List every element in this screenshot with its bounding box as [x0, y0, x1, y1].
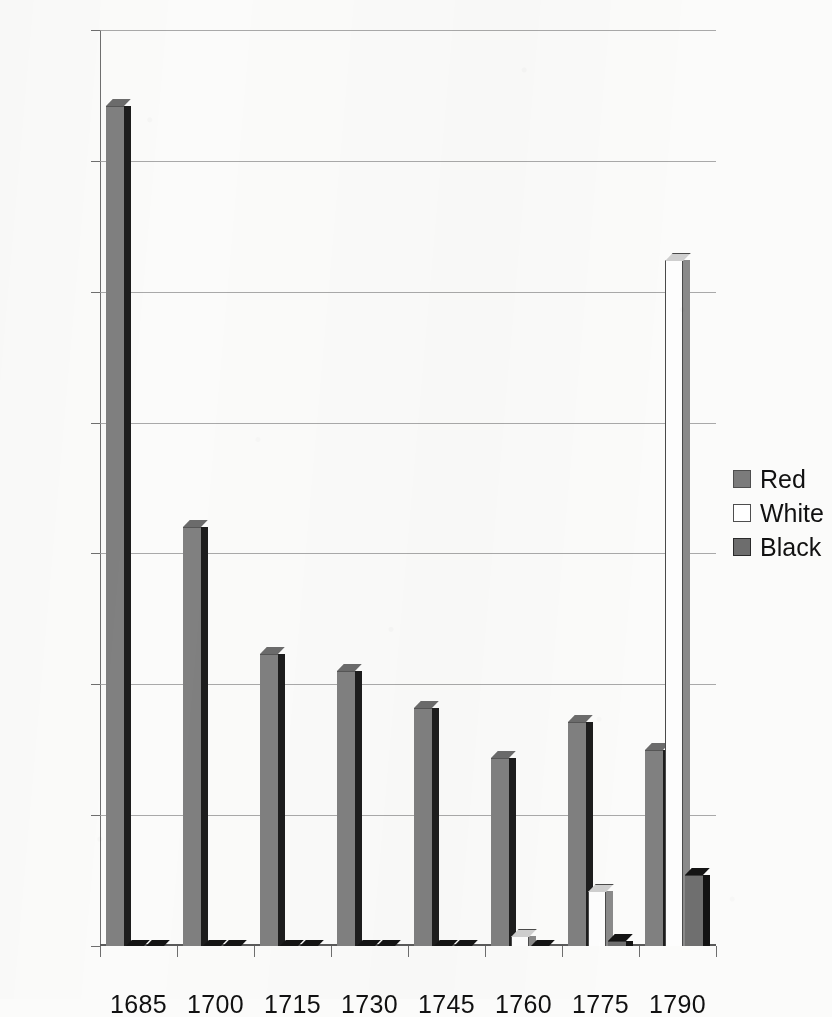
bar-side [509, 758, 516, 946]
x-axis-tick-mark [716, 946, 717, 957]
gridline [100, 161, 716, 162]
legend-item-red: Red [733, 462, 824, 496]
legend-label: White [760, 496, 824, 530]
bar-side [626, 941, 633, 946]
bar-side [124, 106, 131, 946]
legend-label: Black [760, 530, 821, 564]
y-axis-tick-mark [91, 946, 100, 947]
x-axis-tick-mark [485, 946, 486, 957]
bar-face [685, 875, 703, 946]
x-axis-tick-mark [254, 946, 255, 957]
bar-face [183, 527, 201, 946]
bar-face [568, 722, 586, 946]
bar-face [337, 671, 355, 946]
x-axis-tick-label: 1760 [495, 990, 552, 1017]
legend-swatch-white-icon [733, 504, 751, 522]
bar-side [355, 671, 362, 946]
bar-side [432, 708, 439, 946]
legend-label: Red [760, 462, 806, 496]
bar-top [414, 701, 439, 708]
y-axis-tick-mark [91, 423, 100, 424]
x-axis-tick-label: 1685 [110, 990, 167, 1017]
bar-white-1760 [511, 936, 529, 946]
bar-face [491, 758, 509, 946]
x-axis-tick-mark [562, 946, 563, 957]
x-axis-tick-label: 1700 [187, 990, 244, 1017]
bar-red-1730 [337, 671, 355, 946]
bar-white-1775 [588, 891, 606, 946]
bar-side [278, 654, 285, 946]
x-axis-tick-mark [100, 946, 101, 957]
x-axis-tick-mark [408, 946, 409, 957]
bar-top [106, 99, 131, 106]
x-axis-tick-label: 1730 [341, 990, 398, 1017]
x-axis-tick-label: 1715 [264, 990, 321, 1017]
gridline [100, 423, 716, 424]
bar-side [683, 260, 690, 946]
bar-face [414, 708, 432, 946]
bar-face [106, 106, 124, 946]
y-axis-tick-mark [91, 553, 100, 554]
legend-swatch-red-icon [733, 470, 751, 488]
bar-face [260, 654, 278, 946]
bar-top [183, 520, 208, 527]
legend-item-black: Black [733, 530, 824, 564]
x-axis-tick-mark [177, 946, 178, 957]
y-axis-tick-mark [91, 684, 100, 685]
legend-item-white: White [733, 496, 824, 530]
y-axis-tick-mark [91, 815, 100, 816]
x-axis-tick-label: 1790 [649, 990, 706, 1017]
x-axis-tick-mark [639, 946, 640, 957]
bar-face [645, 750, 663, 946]
bar-top [568, 715, 593, 722]
bar-red-1715 [260, 654, 278, 946]
bar-face [665, 260, 683, 946]
plot-area: 0500010000150002000025000300003500016851… [100, 30, 716, 946]
legend-swatch-black-icon [733, 538, 751, 556]
chart-legend: RedWhiteBlack [733, 462, 824, 564]
bar-black-1775 [608, 941, 626, 946]
x-axis-tick-label: 1745 [418, 990, 475, 1017]
bar-top [491, 751, 516, 758]
bar-red-1775 [568, 722, 586, 946]
y-axis-tick-mark [91, 30, 100, 31]
bar-side [201, 527, 208, 946]
y-axis-tick-mark [91, 292, 100, 293]
x-axis-tick-mark [331, 946, 332, 957]
bar-top [260, 647, 285, 654]
bar-red-1745 [414, 708, 432, 946]
bar-face [608, 941, 626, 946]
gridline [100, 30, 716, 31]
bar-top [337, 664, 362, 671]
bar-side [703, 875, 710, 946]
bar-red-1790 [645, 750, 663, 946]
bar-face [588, 891, 606, 946]
bar-red-1685 [106, 106, 124, 946]
y-axis-tick-mark [91, 161, 100, 162]
y-axis-line [100, 30, 101, 946]
bar-red-1760 [491, 758, 509, 946]
bar-white-1790 [665, 260, 683, 946]
bar-black-1790 [685, 875, 703, 946]
bar-face [511, 936, 529, 946]
bar-red-1700 [183, 527, 201, 946]
gridline [100, 292, 716, 293]
x-axis-tick-label: 1775 [572, 990, 629, 1017]
